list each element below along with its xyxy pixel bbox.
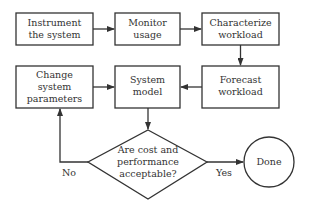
node-forecast-workload: Forecast workload xyxy=(202,66,279,108)
node-label-line: Forecast xyxy=(220,74,262,85)
node-label-line: Instrument xyxy=(28,17,82,28)
node-change-system-parameters: Change system parameters xyxy=(16,66,93,108)
node-label-line: performance xyxy=(117,156,179,167)
node-label-line: Change xyxy=(36,69,73,80)
node-label-line: workload xyxy=(218,86,263,97)
node-label-line: workload xyxy=(218,29,263,40)
node-instrument-the-system: Instrument the system xyxy=(16,13,93,45)
node-monitor-usage: Monitor usage xyxy=(115,13,180,45)
node-decision-cost-performance: Are cost and performance acceptable? xyxy=(88,130,207,199)
node-label-line: Characterize xyxy=(209,17,272,28)
node-label-line: System xyxy=(130,74,165,85)
node-label-line: Are cost and xyxy=(117,144,179,155)
edge-label-no: No xyxy=(62,167,76,178)
node-system-model: System model xyxy=(115,66,180,108)
node-label-line: parameters xyxy=(27,93,83,104)
node-label-line: Monitor xyxy=(128,17,167,28)
edge-label-yes: Yes xyxy=(215,167,232,178)
node-label-line: usage xyxy=(133,29,162,40)
node-done: Done xyxy=(244,137,294,187)
node-label-line: acceptable? xyxy=(119,168,176,179)
node-label-line: model xyxy=(133,86,162,97)
node-label: Done xyxy=(256,156,281,167)
node-label-line: system xyxy=(38,81,72,92)
node-characterize-workload: Characterize workload xyxy=(202,13,279,45)
edge-decision-no-to-change xyxy=(60,109,88,162)
node-label-line: the system xyxy=(28,29,80,40)
capacity-planning-flowchart: Instrument the system Monitor usage Char… xyxy=(0,0,310,208)
